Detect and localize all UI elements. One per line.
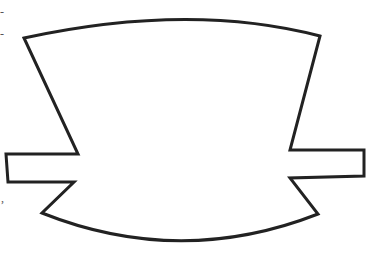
edge-mark-upper: - — [0, 28, 4, 40]
edge-mark-top: - — [0, 6, 4, 18]
figure-canvas: - - , — [0, 0, 387, 264]
top-hat-outline — [0, 0, 387, 264]
edge-mark-comma: , — [1, 192, 4, 204]
top-hat-shape — [6, 19, 364, 240]
